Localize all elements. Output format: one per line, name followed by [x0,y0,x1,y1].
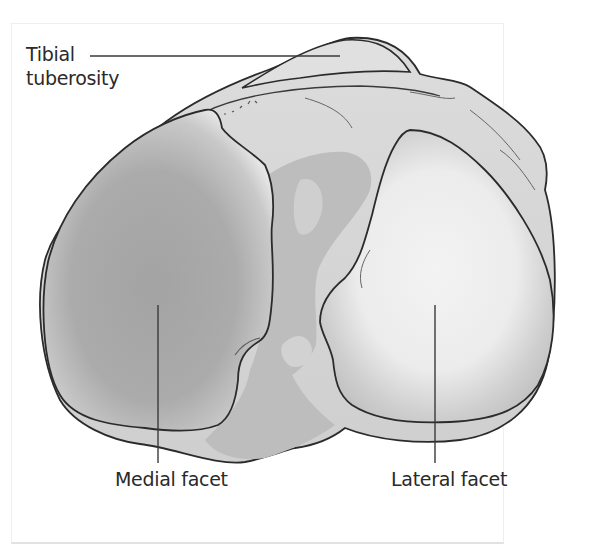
label-tibial-tuberosity: Tibial tuberosity [26,42,119,90]
label-tibial-line1: Tibial [26,42,119,66]
label-medial-facet: Medial facet [115,467,228,491]
label-lateral-facet: Lateral facet [391,467,507,491]
label-tibial-line2: tuberosity [26,66,119,90]
